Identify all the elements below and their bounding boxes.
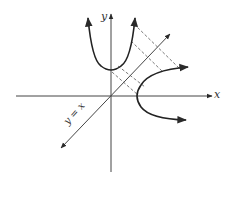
y-axis-label: y (101, 11, 107, 22)
x-axis-label: x (214, 89, 220, 100)
rightward-parabola (137, 67, 188, 120)
diagonal-line-y-equals-x (61, 34, 170, 148)
reflection-diagram (0, 0, 232, 201)
